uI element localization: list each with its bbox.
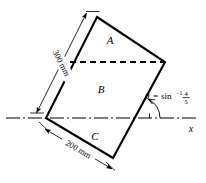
angle-expression: θ = sin −1 4 5 [145, 90, 190, 105]
angle-fraction-denominator: 5 [184, 98, 187, 105]
angle-theta-symbol: θ [145, 91, 150, 101]
figure-container: 300 mm 200 mm A B C x θ = sin −1 4 5 [0, 0, 206, 183]
x-axis-label: x [188, 123, 194, 134]
angle-fraction-numerator: 4 [184, 90, 188, 97]
dim-300-label-group: 300 mm [48, 44, 75, 83]
region-label-c: C [91, 130, 99, 142]
parallelogram-diagram: 300 mm 200 mm A B C x θ = sin −1 4 5 [0, 0, 206, 183]
region-label-a: A [106, 34, 114, 46]
angle-sin-function: sin [161, 91, 172, 101]
angle-equals-sign: = [153, 91, 158, 101]
angle-inverse-exponent: −1 [176, 90, 182, 96]
dim-200-extension-left [39, 122, 48, 131]
region-label-b: B [98, 83, 105, 95]
angle-arc [148, 99, 160, 118]
dim-300-label: 300 mm [51, 48, 73, 78]
